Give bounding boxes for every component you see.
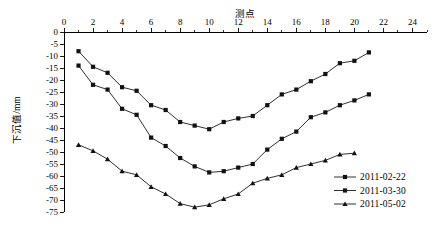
- data-point-marker: [294, 88, 298, 92]
- data-point-marker: [352, 59, 356, 63]
- data-series: [76, 49, 371, 131]
- data-point-marker: [105, 157, 110, 162]
- data-point-marker: [251, 114, 255, 118]
- x-axis-tick-label: 18: [321, 17, 331, 27]
- y-axis-tick-label: -5: [51, 39, 59, 49]
- data-point-marker: [105, 71, 109, 75]
- data-point-marker: [76, 142, 81, 147]
- data-point-marker: [163, 191, 168, 196]
- data-point-marker: [178, 201, 183, 206]
- line-chart-figure: 测点 下沉值/mm 024681012141618202224 0-5-10-1…: [0, 0, 439, 232]
- x-axis-tick-label: 12: [234, 17, 243, 27]
- x-axis-tick-label: 20: [350, 17, 360, 27]
- data-point-marker: [91, 65, 95, 69]
- x-axis: 024681012141618202224: [62, 17, 427, 32]
- data-point-marker: [251, 162, 255, 166]
- x-axis-tick-label: 24: [408, 17, 418, 27]
- y-axis-tick-label: -10: [46, 51, 58, 61]
- data-point-marker: [105, 88, 109, 92]
- data-point-marker: [222, 169, 226, 173]
- legend-item-label: 2011-03-30: [360, 186, 406, 196]
- data-point-marker: [135, 89, 139, 93]
- data-point-marker: [338, 61, 342, 65]
- data-point-marker: [164, 108, 168, 112]
- x-axis-tick-label: 8: [178, 17, 183, 27]
- data-point-marker: [309, 79, 313, 83]
- legend-swatch-marker: [343, 175, 347, 179]
- y-axis-tick-label: 0: [54, 27, 59, 37]
- data-point-marker: [236, 116, 240, 120]
- y-axis-tick-label: -15: [46, 63, 58, 73]
- data-point-marker: [323, 158, 328, 163]
- data-point-marker: [309, 115, 313, 119]
- y-axis-tick-label: -65: [46, 183, 58, 193]
- data-point-marker: [265, 103, 269, 107]
- y-axis-tick-label: -35: [46, 111, 58, 121]
- data-point-marker: [149, 136, 153, 140]
- x-axis-tick-label: 14: [263, 17, 273, 27]
- data-point-marker: [280, 137, 284, 141]
- data-point-marker: [367, 92, 371, 96]
- y-axis-tick-label: -50: [46, 147, 58, 157]
- data-point-marker: [279, 172, 284, 177]
- y-axis: 0-5-10-15-20-25-30-35-40-45-50-55-60-65-…: [46, 27, 64, 217]
- x-axis-tick-label: 16: [292, 17, 302, 27]
- data-point-marker: [120, 85, 124, 89]
- x-axis-tick-label: 0: [62, 17, 67, 27]
- data-point-marker: [207, 127, 211, 131]
- legend: 2011-02-222011-03-302011-05-02: [334, 172, 406, 209]
- y-axis-tick-label: -55: [46, 159, 58, 169]
- data-point-marker: [135, 113, 139, 117]
- data-point-marker: [178, 156, 182, 160]
- legend-item-label: 2011-02-22: [360, 172, 406, 182]
- data-point-marker: [149, 103, 153, 107]
- x-axis-tick-label: 4: [120, 17, 125, 27]
- data-point-marker: [193, 164, 197, 168]
- data-point-marker: [280, 92, 284, 96]
- y-axis-title: 下沉值/mm: [11, 96, 22, 144]
- data-series-group: [76, 49, 371, 209]
- y-axis-tick-label: -30: [46, 99, 58, 109]
- x-axis-tick-label: 10: [205, 17, 215, 27]
- data-point-marker: [352, 98, 356, 102]
- data-point-marker: [207, 202, 212, 207]
- data-point-marker: [76, 49, 80, 53]
- x-axis-tick-label: 22: [379, 17, 388, 27]
- data-point-marker: [265, 148, 269, 152]
- series-line: [79, 51, 369, 129]
- legend-swatch-marker: [343, 188, 347, 192]
- data-point-marker: [90, 148, 95, 153]
- x-axis-tick-label: 2: [91, 17, 96, 27]
- legend-item-label: 2011-05-02: [360, 199, 406, 209]
- series-line: [79, 66, 369, 173]
- data-point-marker: [236, 166, 240, 170]
- data-point-marker: [178, 120, 182, 124]
- y-axis-tick-label: -45: [46, 135, 58, 145]
- data-point-marker: [323, 72, 327, 76]
- x-axis-tick-label: 6: [149, 17, 154, 27]
- y-axis-tick-label: -75: [46, 207, 58, 217]
- y-axis-tick-label: -25: [46, 87, 58, 97]
- data-point-marker: [207, 170, 211, 174]
- data-series: [76, 64, 371, 175]
- y-axis-tick-label: -60: [46, 171, 58, 181]
- chart-container: 测点 下沉值/mm 024681012141618202224 0-5-10-1…: [0, 0, 439, 232]
- y-axis-tick-label: -40: [46, 123, 58, 133]
- data-point-marker: [367, 50, 371, 54]
- data-series: [76, 142, 357, 209]
- data-point-marker: [193, 124, 197, 128]
- data-point-marker: [76, 64, 80, 68]
- data-point-marker: [294, 130, 298, 134]
- y-axis-tick-label: -20: [46, 75, 58, 85]
- data-point-marker: [338, 103, 342, 107]
- y-axis-tick-label: -70: [46, 195, 58, 205]
- data-point-marker: [222, 120, 226, 124]
- data-point-marker: [164, 144, 168, 148]
- data-point-marker: [323, 110, 327, 114]
- data-point-marker: [120, 107, 124, 111]
- data-point-marker: [91, 83, 95, 87]
- series-line: [79, 145, 355, 207]
